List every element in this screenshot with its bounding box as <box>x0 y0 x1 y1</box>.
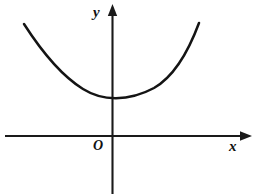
parabola-figure: y x O <box>0 0 258 194</box>
origin-label: O <box>93 139 103 153</box>
x-axis-label: x <box>229 139 237 154</box>
x-axis-arrowhead-icon <box>240 131 252 141</box>
y-axis-label: y <box>93 5 100 20</box>
coordinate-plane-svg <box>0 0 258 194</box>
y-axis-arrowhead-icon <box>108 4 117 16</box>
